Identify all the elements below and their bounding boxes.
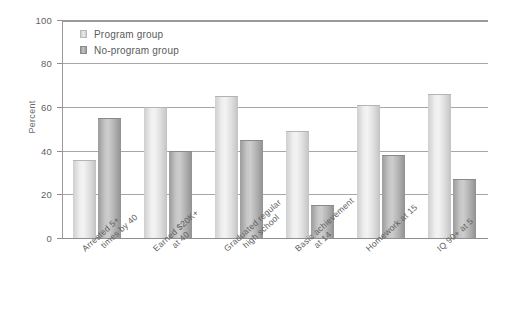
legend-label-no-program: No-program group bbox=[94, 45, 179, 56]
legend-item-no-program: No-program group bbox=[80, 43, 179, 57]
y-axis-title: Percent bbox=[27, 77, 37, 157]
legend-swatch-no-program-icon bbox=[80, 46, 87, 54]
legend: Program group No-program group bbox=[80, 27, 179, 59]
bar-chart: Percent 100 80 60 40 20 0 Program group … bbox=[0, 0, 511, 335]
x-axis-line bbox=[62, 238, 488, 239]
legend-swatch-program-icon bbox=[80, 30, 87, 38]
bar-program-3 bbox=[215, 96, 238, 238]
y-tick-label-80: 80 bbox=[24, 58, 52, 69]
plot-top-border bbox=[63, 21, 488, 22]
legend-label-program: Program group bbox=[94, 29, 163, 40]
bar-program-6 bbox=[428, 94, 451, 238]
y-tick-label-20: 20 bbox=[24, 189, 52, 200]
bar-program-1 bbox=[73, 160, 96, 238]
y-tick-label-0: 0 bbox=[24, 233, 52, 244]
legend-item-program: Program group bbox=[80, 27, 179, 41]
y-tick-label-60: 60 bbox=[24, 102, 52, 113]
y-tick-label-40: 40 bbox=[24, 146, 52, 157]
y-tick-label-100: 100 bbox=[24, 15, 52, 26]
